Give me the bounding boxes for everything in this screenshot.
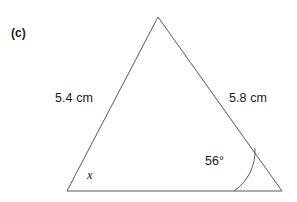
known-angle-label: 56° xyxy=(205,154,224,168)
angle-arc-56 xyxy=(234,148,255,191)
right-side-length-label: 5.8 cm xyxy=(229,91,267,105)
geometry-figure: (c) 5.4 cm 5.8 cm 56° x xyxy=(0,0,297,202)
part-label: (c) xyxy=(11,26,26,40)
left-side-length-label: 5.4 cm xyxy=(55,91,93,105)
unknown-angle-label: x xyxy=(87,168,93,183)
